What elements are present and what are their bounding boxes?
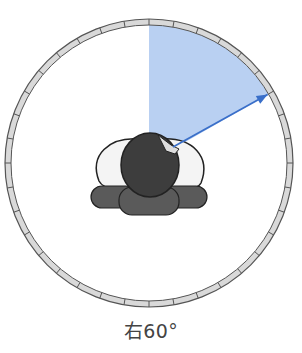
rotation-diagram (0, 0, 302, 320)
person-top-view-icon (91, 133, 207, 215)
angle-caption: 右60° (0, 316, 302, 343)
